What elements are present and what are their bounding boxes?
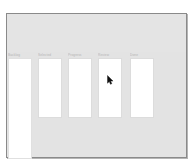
column-header-label: Done (130, 53, 154, 57)
column-card-area[interactable] (98, 58, 122, 118)
column-header-label: Selected (38, 53, 62, 57)
column-header-label: Review (98, 53, 122, 57)
column-card-area[interactable] (38, 58, 62, 118)
column-card-area[interactable] (8, 58, 32, 159)
board-columns-area: BacklogSelectedProgressReviewDone (7, 52, 186, 157)
screen-root: BacklogSelectedProgressReviewDone (0, 0, 193, 167)
column-header-label: Backlog (8, 53, 32, 57)
application-window: BacklogSelectedProgressReviewDone (6, 13, 187, 158)
column-header-label: Progress (68, 53, 92, 57)
column-card-area[interactable] (130, 58, 154, 118)
column-card-area[interactable] (68, 58, 92, 118)
window-header-strip (7, 14, 186, 52)
